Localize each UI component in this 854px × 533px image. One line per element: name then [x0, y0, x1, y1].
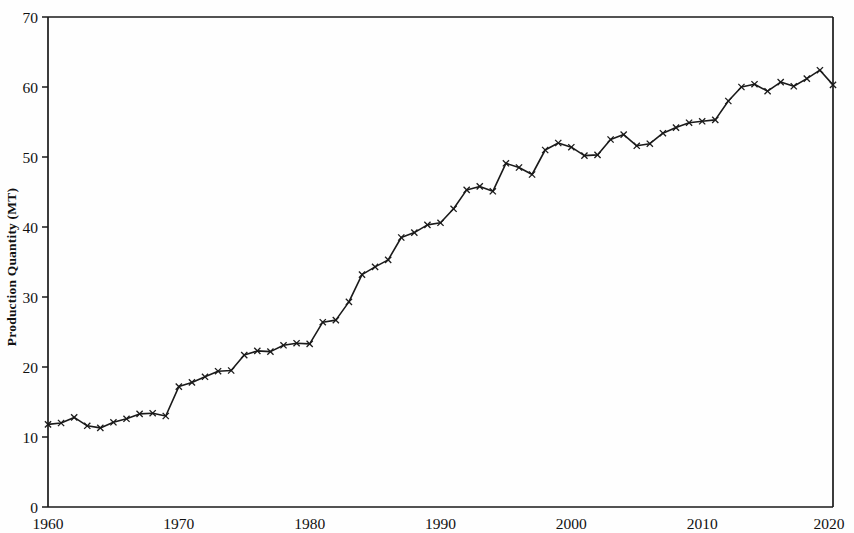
- data-point-marker: [346, 299, 352, 305]
- data-point-marker: [529, 171, 535, 177]
- chart-canvas: 010203040506070 196019701980199020002010…: [0, 0, 854, 533]
- plot-frame: [48, 17, 833, 507]
- production-quantity-line: [48, 70, 833, 428]
- production-quantity-markers: [45, 67, 836, 431]
- data-point-marker: [359, 272, 365, 278]
- y-axis-title: Production Quantity (MT): [0, 0, 25, 533]
- y-tick-label: 0: [30, 499, 38, 516]
- data-point-marker: [804, 76, 810, 82]
- data-point-marker: [725, 98, 731, 104]
- y-axis-title-text: Production Quantity (MT): [4, 187, 20, 345]
- line-chart-figure: 010203040506070 196019701980199020002010…: [0, 0, 854, 533]
- data-point-marker: [542, 147, 548, 153]
- x-tick-label: 2010: [687, 515, 718, 532]
- x-tick-label: 1990: [425, 515, 456, 532]
- x-tick-label: 1980: [294, 515, 325, 532]
- data-point-marker: [202, 374, 208, 380]
- x-tick-label: 1960: [33, 515, 64, 532]
- x-tick-label: 1970: [163, 515, 194, 532]
- data-point-marker: [372, 264, 378, 270]
- data-point-marker: [817, 67, 823, 73]
- data-point-marker: [385, 257, 391, 263]
- chart-figure-root: 010203040506070 196019701980199020002010…: [0, 0, 854, 533]
- x-axis-tick-labels: 1960197019801990200020102020: [33, 515, 845, 532]
- x-tick-label: 2000: [556, 515, 587, 532]
- x-tick-label: 2020: [814, 515, 845, 532]
- data-point-marker: [660, 130, 666, 136]
- data-point-marker: [764, 88, 770, 94]
- y-axis-tick-marks: [42, 17, 48, 507]
- data-point-marker: [71, 414, 77, 420]
- data-point-marker: [450, 206, 456, 212]
